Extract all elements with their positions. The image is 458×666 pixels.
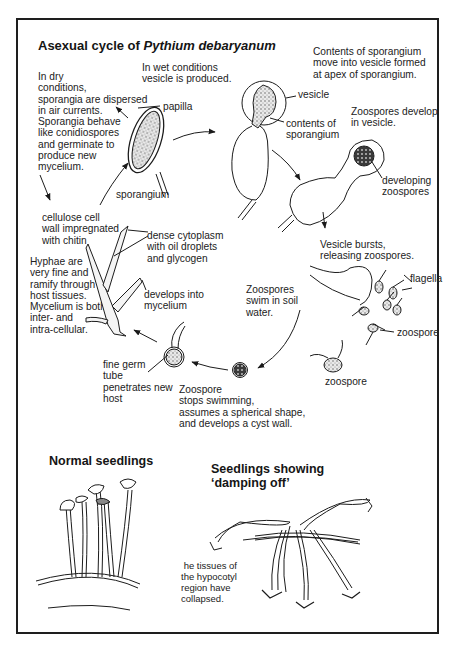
damping-off-seedlings-drawing (210, 498, 372, 608)
normal-seedlings-drawing (36, 479, 140, 610)
germinating-cyst-drawing (148, 322, 185, 372)
vesicle-drawing (232, 81, 296, 220)
sporangium-drawing (121, 103, 171, 197)
cyst-drawing (233, 363, 248, 378)
cycle-illustration (0, 0, 458, 666)
hyphae-drawing (86, 226, 148, 336)
developing-zoospores-drawing (278, 140, 384, 232)
burst-vesicle-drawing (310, 266, 372, 305)
